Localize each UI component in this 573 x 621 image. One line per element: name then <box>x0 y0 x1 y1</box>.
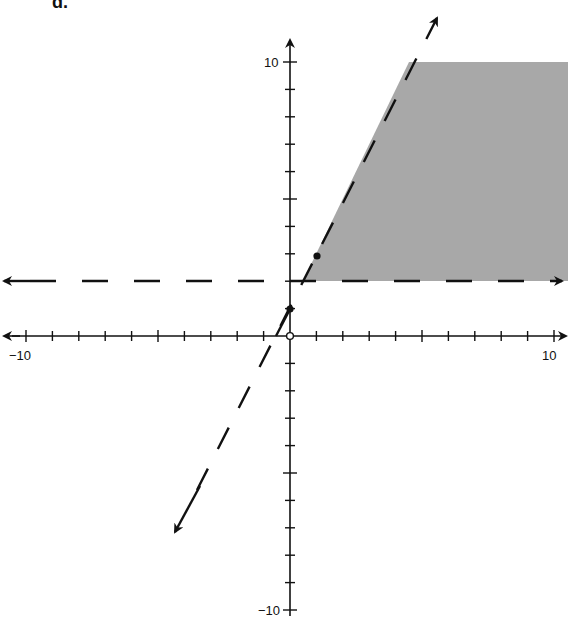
point-filled-1-3 <box>313 252 320 259</box>
shaded-region <box>303 62 568 281</box>
coordinate-plane: −10 10 10 −10 <box>0 0 573 621</box>
x-tick-label-max: 10 <box>542 348 556 363</box>
y-tick-label-min: −10 <box>258 603 280 618</box>
y-tick-label-max: 10 <box>264 55 278 70</box>
point-open-origin <box>287 333 294 340</box>
solid-segment <box>276 311 289 336</box>
x-tick-label-min: −10 <box>9 348 31 363</box>
point-filled-0-1 <box>286 305 293 312</box>
